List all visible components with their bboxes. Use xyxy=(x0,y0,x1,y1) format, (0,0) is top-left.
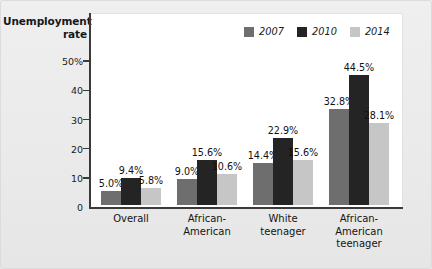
x-axis-category-label: Overall xyxy=(89,213,173,226)
bar-2010-3[interactable]: 44.5% xyxy=(349,75,369,205)
bar-2014-0[interactable]: 5.8% xyxy=(141,188,161,205)
bar-value-label: 22.9% xyxy=(268,125,298,136)
y-axis-tick-label: 40 xyxy=(39,85,83,96)
legend-label: 2007 xyxy=(259,26,284,37)
legend-label: 2010 xyxy=(312,26,337,37)
bar-group: 14.4%22.9%15.6% xyxy=(253,10,313,205)
y-axis-tick-label: 30 xyxy=(39,114,83,125)
bar-group: 5.0%9.4%5.8% xyxy=(101,10,161,205)
y-axis-tick-label: 0 xyxy=(39,202,83,213)
legend-item-2010[interactable]: 2010 xyxy=(297,26,337,37)
bar-2014-1[interactable]: 10.6% xyxy=(217,174,237,205)
bar-2007-2[interactable]: 14.4% xyxy=(253,163,273,205)
bar-group: 32.8%44.5%28.1% xyxy=(329,10,389,205)
bar-2014-3[interactable]: 28.1% xyxy=(369,123,389,205)
y-axis-tick-label: 20 xyxy=(39,143,83,154)
bar-2007-1[interactable]: 9.0% xyxy=(177,179,197,205)
bar-2007-3[interactable]: 32.8% xyxy=(329,109,349,205)
bar-2014-2[interactable]: 15.6% xyxy=(293,160,313,206)
legend-swatch-icon xyxy=(350,27,360,37)
y-axis-tick-mark xyxy=(83,60,89,61)
x-axis-category-label: African- American teenager xyxy=(317,213,401,251)
legend-swatch-icon xyxy=(297,27,307,37)
legend-item-2014[interactable]: 2014 xyxy=(350,26,390,37)
bar-group: 9.0%15.6%10.6% xyxy=(177,10,237,205)
y-axis-tick-mark xyxy=(83,90,89,91)
x-axis-category-label: White teenager xyxy=(241,213,325,238)
y-axis-tick-label: 50% xyxy=(39,56,83,67)
bar-value-label: 15.6% xyxy=(288,147,318,158)
x-axis-category-label: African- American xyxy=(165,213,249,238)
bar-value-label: 5.0% xyxy=(99,178,123,189)
y-axis-tick-mark xyxy=(83,119,89,120)
bar-value-label: 10.6% xyxy=(212,161,242,172)
y-axis-line xyxy=(89,13,91,209)
y-axis-tick-label: 10 xyxy=(39,173,83,184)
bar-value-label: 5.8% xyxy=(139,175,163,186)
bar-value-label: 28.1% xyxy=(364,110,394,121)
chart-figure: Unemployment rate 50%403020100 5.0%9.4%5… xyxy=(0,0,432,269)
chart-legend: 200720102014 xyxy=(244,26,390,37)
bar-value-label: 44.5% xyxy=(344,62,374,73)
y-axis-tick-mark xyxy=(83,148,89,149)
bar-value-label: 9.4% xyxy=(119,165,143,176)
legend-swatch-icon xyxy=(244,27,254,37)
bar-value-label: 15.6% xyxy=(192,147,222,158)
x-axis-line xyxy=(89,207,403,209)
bar-2007-0[interactable]: 5.0% xyxy=(101,191,121,206)
y-axis-tick-labels: 50%403020100 xyxy=(31,1,83,269)
bar-value-label: 9.0% xyxy=(175,166,199,177)
legend-label: 2014 xyxy=(365,26,390,37)
legend-item-2007[interactable]: 2007 xyxy=(244,26,284,37)
y-axis-tick-mark xyxy=(83,177,89,178)
